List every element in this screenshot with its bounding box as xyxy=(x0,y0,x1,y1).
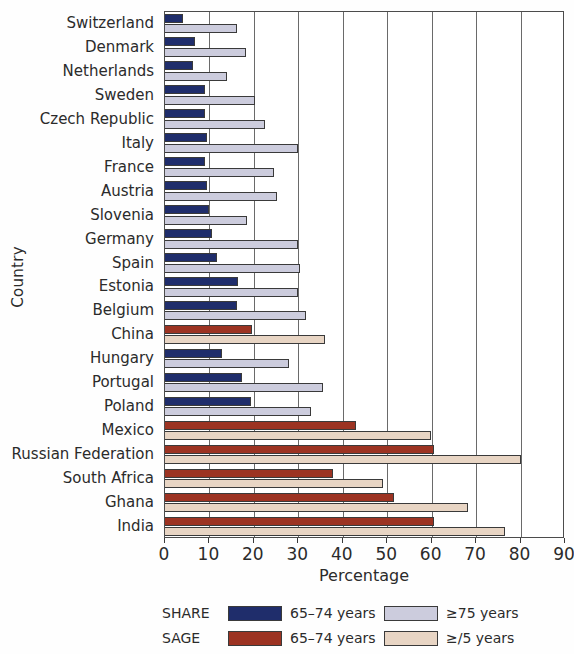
category-label: Hungary xyxy=(90,346,154,370)
bar-old xyxy=(165,72,227,81)
category-label: Switzerland xyxy=(67,11,155,35)
category-label: Czech Republic xyxy=(40,107,154,131)
legend-label-young: 65–74 years xyxy=(290,602,376,624)
x-tick-label: 10 xyxy=(188,544,228,564)
x-axis-ticks: 0102030405060708090 xyxy=(164,540,564,566)
legend-label-old: ≥/5 years xyxy=(446,627,514,649)
bar-group xyxy=(165,204,563,228)
bar-young xyxy=(165,61,193,70)
bar-young xyxy=(165,493,394,502)
legend-swatch-young xyxy=(228,606,282,621)
legend-swatch-young xyxy=(228,631,282,646)
bar-old xyxy=(165,168,274,177)
x-tick-label: 70 xyxy=(455,544,495,564)
category-label: Netherlands xyxy=(63,59,154,83)
bar-group xyxy=(165,252,563,276)
bar-old xyxy=(165,144,298,153)
category-label: Slovenia xyxy=(90,203,154,227)
bar-group xyxy=(165,36,563,60)
legend-study-label: SAGE xyxy=(162,627,224,649)
category-label: Italy xyxy=(121,131,154,155)
bar-young xyxy=(165,85,205,94)
bar-old xyxy=(165,407,311,416)
category-label: Germany xyxy=(85,227,154,251)
x-tick-label: 50 xyxy=(366,544,406,564)
bar-old xyxy=(165,359,289,368)
bar-young xyxy=(165,133,207,142)
bar-chart-figure: Country SwitzerlandDenmarkNetherlandsSwe… xyxy=(0,0,574,654)
bar-young xyxy=(165,253,217,262)
bar-young xyxy=(165,325,252,334)
bar-old xyxy=(165,335,325,344)
bar-young xyxy=(165,37,195,46)
bar-old xyxy=(165,264,300,273)
category-label: China xyxy=(111,322,154,346)
bar-old xyxy=(165,240,298,249)
bar-young xyxy=(165,445,434,454)
bar-young xyxy=(165,517,434,526)
bar-old xyxy=(165,288,298,297)
x-tick-mark xyxy=(520,538,521,543)
bar-group xyxy=(165,323,563,347)
bar-group xyxy=(165,347,563,371)
bar-old xyxy=(165,48,246,57)
bar-group xyxy=(165,395,563,419)
legend-label-old: ≥75 years xyxy=(446,602,519,624)
x-tick-mark xyxy=(475,538,476,543)
x-tick-label: 90 xyxy=(544,544,574,564)
x-tick-label: 0 xyxy=(144,544,184,564)
category-label: Belgium xyxy=(93,298,155,322)
legend-row-share: SHARE65–74 years≥75 years xyxy=(162,602,562,624)
bar-young xyxy=(165,205,209,214)
category-label: South Africa xyxy=(63,466,154,490)
bar-old xyxy=(165,503,468,512)
bar-old xyxy=(165,311,306,320)
category-label: Spain xyxy=(112,251,154,275)
bar-young xyxy=(165,229,212,238)
category-label: India xyxy=(117,514,154,538)
bar-young xyxy=(165,181,207,190)
category-label: Sweden xyxy=(95,83,154,107)
bar-old xyxy=(165,192,277,201)
x-tick-mark xyxy=(342,538,343,543)
bar-young xyxy=(165,469,333,478)
bar-group xyxy=(165,419,563,443)
bar-group xyxy=(165,84,563,108)
bar-old xyxy=(165,120,265,129)
bar-young xyxy=(165,421,356,430)
bar-group xyxy=(165,491,563,515)
category-label: Russian Federation xyxy=(12,442,154,466)
bar-young xyxy=(165,301,237,310)
x-tick-mark xyxy=(208,538,209,543)
legend-row-sage: SAGE65–74 years≥/5 years xyxy=(162,627,562,649)
bar-old xyxy=(165,527,505,536)
x-axis-title: Percentage xyxy=(164,566,564,585)
category-label: Estonia xyxy=(99,274,154,298)
bar-group xyxy=(165,108,563,132)
bar-group xyxy=(165,467,563,491)
x-tick-label: 80 xyxy=(500,544,540,564)
category-label: Poland xyxy=(104,394,154,418)
plot-area xyxy=(164,11,564,538)
bar-young xyxy=(165,277,238,286)
bar-group xyxy=(165,180,563,204)
category-label: Austria xyxy=(101,179,154,203)
bar-group xyxy=(165,12,563,36)
x-tick-mark xyxy=(431,538,432,543)
bar-young xyxy=(165,397,251,406)
bar-old xyxy=(165,216,247,225)
x-tick-mark xyxy=(386,538,387,543)
bar-group xyxy=(165,371,563,395)
bar-young xyxy=(165,157,205,166)
bar-old xyxy=(165,24,237,33)
bar-young xyxy=(165,14,183,23)
bar-group xyxy=(165,60,563,84)
bar-group xyxy=(165,299,563,323)
bar-group xyxy=(165,276,563,300)
bar-group xyxy=(165,132,563,156)
bar-old xyxy=(165,431,431,440)
bar-old xyxy=(165,383,323,392)
x-tick-mark xyxy=(297,538,298,543)
legend-label-young: 65–74 years xyxy=(290,627,376,649)
bar-group xyxy=(165,515,563,539)
